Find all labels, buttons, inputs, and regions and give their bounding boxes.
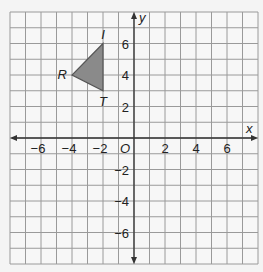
vertex-label-I: I [101,27,105,42]
origin-label: O [120,141,130,156]
y-tick-label: −2 [114,163,129,178]
x-tick-label: 2 [161,141,168,156]
y-tick-label: 2 [122,100,129,115]
x-tick-label: −4 [62,141,77,156]
x-tick-label: −2 [93,141,108,156]
y-tick-label: 4 [122,68,129,83]
y-tick-label: −4 [114,194,129,209]
x-axis-label: x [245,121,253,136]
x-tick-label: 4 [192,141,199,156]
y-tick-label: 6 [122,37,129,52]
x-tick-label: −6 [31,141,46,156]
vertex-label-T: T [99,94,108,109]
coordinate-plane: IRT −6−4−2246642−2−4−6 x y O [0,0,263,272]
vertex-label-R: R [58,67,67,82]
x-tick-label: 6 [223,141,230,156]
y-tick-label: −6 [114,226,129,241]
